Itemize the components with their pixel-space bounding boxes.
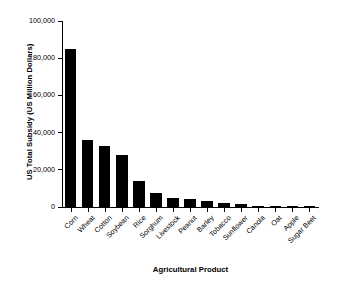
y-axis-title: US Total Subsidy (US Million Dollars) bbox=[26, 12, 34, 212]
x-tick-mark bbox=[122, 208, 123, 212]
bar bbox=[201, 201, 213, 207]
bar bbox=[184, 199, 196, 207]
x-tick-mark bbox=[71, 208, 72, 212]
bar bbox=[235, 204, 247, 207]
bar bbox=[270, 206, 282, 207]
x-tick-mark bbox=[88, 208, 89, 212]
x-axis-ticks: CornWheatCottonSoybeanRiceSorghumLivesto… bbox=[62, 208, 319, 288]
bar bbox=[99, 146, 111, 207]
x-tick-mark bbox=[139, 208, 140, 212]
x-tick-mark bbox=[241, 208, 242, 212]
bar bbox=[167, 198, 179, 207]
x-tick-mark bbox=[309, 208, 310, 212]
bar bbox=[304, 206, 316, 207]
y-tick-label: 80,000 bbox=[0, 55, 55, 62]
x-tick-mark bbox=[105, 208, 106, 212]
x-tick-mark bbox=[156, 208, 157, 212]
x-tick-mark bbox=[173, 208, 174, 212]
y-tick-label: 20,000 bbox=[0, 166, 55, 173]
x-tick-mark bbox=[292, 208, 293, 212]
x-tick-mark bbox=[275, 208, 276, 212]
x-tick-mark bbox=[190, 208, 191, 212]
bar bbox=[116, 155, 128, 207]
y-tick-label: 100,000 bbox=[0, 17, 55, 24]
bar bbox=[65, 49, 77, 207]
x-tick-mark bbox=[258, 208, 259, 212]
bar bbox=[82, 140, 94, 207]
x-tick-mark bbox=[207, 208, 208, 212]
bar bbox=[287, 206, 299, 207]
bar-chart-figure: US Total Subsidy (US Million Dollars) 02… bbox=[0, 0, 337, 289]
bar bbox=[218, 203, 230, 207]
y-tick-label: 0 bbox=[0, 203, 55, 210]
bar bbox=[252, 206, 264, 207]
y-tick-label: 60,000 bbox=[0, 92, 55, 99]
x-tick-label: Wheat bbox=[76, 214, 96, 234]
x-tick-mark bbox=[224, 208, 225, 212]
y-tick-label: 40,000 bbox=[0, 129, 55, 136]
bar bbox=[133, 181, 145, 207]
x-axis-title: Agricultural Product bbox=[62, 266, 319, 274]
x-tick-label: Canola bbox=[245, 214, 266, 235]
plot-area bbox=[62, 21, 318, 207]
bar bbox=[150, 193, 162, 207]
